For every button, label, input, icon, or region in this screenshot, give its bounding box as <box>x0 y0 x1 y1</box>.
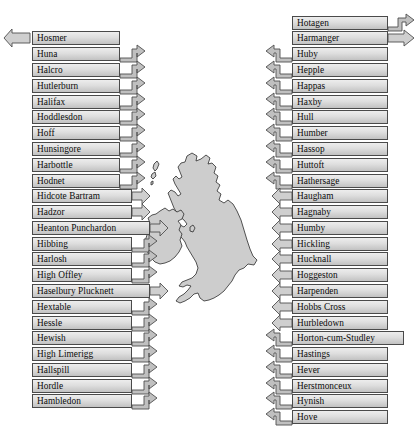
right-arrow-flat-12 <box>150 220 168 236</box>
left-label-8[interactable]: Harbottle <box>32 158 120 172</box>
left-label-19[interactable]: Hewish <box>32 331 132 345</box>
left-arrow-flat-18 <box>272 299 292 315</box>
left-arrow-flat-14 <box>272 236 292 252</box>
left-arrow-hook-23 <box>266 377 292 394</box>
right-arrow-hook-22 <box>132 377 157 394</box>
right-label-4[interactable]: Happas <box>292 79 388 93</box>
right-arrow-flat-16 <box>150 283 168 299</box>
left-label-0[interactable]: Hosmer <box>32 31 120 45</box>
right-label-18[interactable]: Hobbs Cross <box>292 300 388 314</box>
left-label-7[interactable]: Hunsingore <box>32 142 120 156</box>
right-arrow-hook-3 <box>120 77 145 94</box>
left-arrow-hook-25 <box>266 408 292 425</box>
left-label-9[interactable]: Hodnet <box>32 174 120 188</box>
diagram-canvas: HosmerHunaHalcroHutlerburnHalifaxHoddles… <box>0 0 420 431</box>
right-label-15[interactable]: Hucknall <box>292 252 388 266</box>
right-label-24[interactable]: Hynish <box>292 394 388 408</box>
right-label-10[interactable]: Hathersage <box>292 174 388 188</box>
left-label-1[interactable]: Huna <box>32 47 120 61</box>
right-label-2[interactable]: Huby <box>292 47 388 61</box>
right-label-23[interactable]: Herstmonceux <box>292 379 388 393</box>
right-label-17[interactable]: Harpenden <box>292 284 388 298</box>
left-arrow-flat-16 <box>272 267 292 283</box>
left-label-13[interactable]: Hibbing <box>32 237 132 251</box>
left-label-10[interactable]: Hidcote Bartram <box>32 189 132 203</box>
right-label-13[interactable]: Humby <box>292 221 388 235</box>
right-arrow-hook-19 <box>132 329 157 346</box>
left-label-15[interactable]: High Offley <box>32 268 132 282</box>
left-label-23[interactable]: Hambledon <box>32 394 132 408</box>
right-label-14[interactable]: Hickling <box>292 237 388 251</box>
left-arrow-hook-24 <box>266 392 292 409</box>
left-label-21[interactable]: Hallspill <box>32 363 132 377</box>
right-arrow-hook-6 <box>120 124 145 141</box>
left-arrow-flat-15 <box>272 251 292 267</box>
right-label-25[interactable]: Hove <box>292 410 388 424</box>
right-arrow-hook-2 <box>120 61 145 78</box>
left-label-2[interactable]: Halcro <box>32 63 120 77</box>
left-label-18[interactable]: Hessle <box>32 316 132 330</box>
left-label-4[interactable]: Halifax <box>32 95 120 109</box>
right-label-3[interactable]: Hepple <box>292 63 388 77</box>
right-label-0[interactable]: Hotagen <box>292 16 388 30</box>
right-label-19[interactable]: Hurbledown <box>292 316 388 330</box>
right-label-8[interactable]: Hassop <box>292 142 388 156</box>
right-arrow-hook-14 <box>132 250 157 267</box>
left-arrow-hook-5 <box>266 93 292 110</box>
left-arrow-hook-8 <box>266 140 292 157</box>
right-label-22[interactable]: Hever <box>292 363 388 377</box>
left-label-12[interactable]: Heanton Punchardon <box>32 221 150 235</box>
right-arrow-hook-21 <box>132 361 157 378</box>
right-arrow-hook-7 <box>120 140 145 157</box>
left-label-14[interactable]: Harlosh <box>32 252 132 266</box>
left-arrow-hook-3 <box>266 61 292 78</box>
right-arrow-hook-9 <box>120 172 145 189</box>
left-arrow-hook-20 <box>266 329 292 346</box>
right-label-20[interactable]: Horton-cum-Studley <box>292 331 404 345</box>
left-label-16[interactable]: Haselbury Plucknett <box>32 284 150 298</box>
left-arrow-hook-9 <box>266 156 292 173</box>
right-arrow-hook-1 <box>120 45 145 62</box>
left-arrow-hook-21 <box>266 345 292 362</box>
left-arrow-out-0 <box>4 29 30 47</box>
left-label-6[interactable]: Hoff <box>32 126 120 140</box>
right-arrow-flat-11 <box>132 204 150 220</box>
left-arrow-flat-19 <box>272 315 292 331</box>
right-label-1[interactable]: Harmanger <box>292 31 388 45</box>
left-arrow-flat-11 <box>272 188 292 204</box>
left-arrow-hook-6 <box>266 108 292 125</box>
right-label-12[interactable]: Hagnaby <box>292 205 388 219</box>
right-arrow-flat-10 <box>132 188 150 204</box>
right-arrow-hook-4 <box>120 93 145 110</box>
left-label-3[interactable]: Hutlerburn <box>32 79 120 93</box>
left-arrow-flat-13 <box>272 220 292 236</box>
right-out-flat-1 <box>388 30 414 46</box>
right-arrow-hook-17 <box>132 298 157 315</box>
right-label-6[interactable]: Hull <box>292 110 388 124</box>
left-label-5[interactable]: Hoddlesdon <box>32 110 120 124</box>
right-arrow-hook-15 <box>132 266 157 283</box>
left-label-11[interactable]: Hadzor <box>32 205 132 219</box>
left-label-17[interactable]: Hextable <box>32 300 132 314</box>
left-label-20[interactable]: High Limerigg <box>32 347 132 361</box>
right-label-7[interactable]: Humber <box>292 126 388 140</box>
left-arrow-hook-4 <box>266 77 292 94</box>
right-arrow-hook-5 <box>120 108 145 125</box>
right-label-21[interactable]: Hastings <box>292 347 388 361</box>
right-label-11[interactable]: Haugham <box>292 189 388 203</box>
right-label-16[interactable]: Hoggeston <box>292 268 388 282</box>
left-arrow-hook-22 <box>266 361 292 378</box>
right-arrow-hook-18 <box>132 314 157 331</box>
right-out-hook-0 <box>388 14 414 31</box>
right-arrow-hook-23 <box>132 392 157 409</box>
right-label-5[interactable]: Haxby <box>292 95 388 109</box>
left-arrow-hook-2 <box>266 45 292 62</box>
left-arrow-flat-12 <box>272 204 292 220</box>
right-label-9[interactable]: Huttoft <box>292 158 388 172</box>
left-label-22[interactable]: Hordle <box>32 379 132 393</box>
left-arrow-flat-17 <box>272 283 292 299</box>
right-arrow-hook-20 <box>132 345 157 362</box>
left-arrow-hook-7 <box>266 124 292 141</box>
right-arrow-hook-8 <box>120 156 145 173</box>
right-arrow-hook-13 <box>132 235 157 252</box>
